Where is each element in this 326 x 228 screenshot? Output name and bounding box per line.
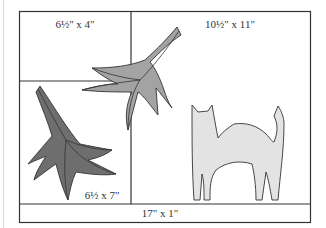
quilt-diagram: 6½" x 4" 10½" x 11" 6½ x 7" 17" x 1" <box>0 0 326 228</box>
label-bottom-left: 6½ x 7" <box>85 189 120 201</box>
cat-shape <box>192 105 284 200</box>
label-top-right: 10½" x 11" <box>205 18 255 30</box>
label-bottom-strip: 17" x 1" <box>142 207 178 219</box>
leaf-dark-gray-shape <box>28 86 116 200</box>
label-top-left: 6½" x 4" <box>55 18 94 30</box>
